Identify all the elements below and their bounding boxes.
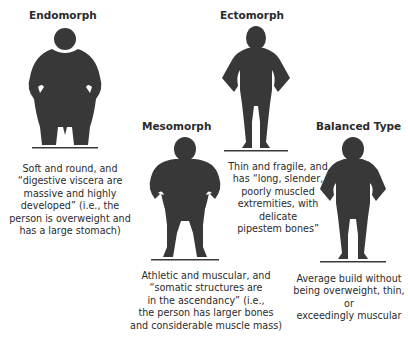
balanced-type-title: Balanced Type	[316, 120, 401, 132]
ectomorph-title: Ectomorph	[220, 9, 284, 21]
ectomorph-silhouette-icon	[220, 26, 292, 156]
mesomorph-title: Mesomorph	[142, 120, 211, 132]
balanced-type-description: Average build without being overweight, …	[290, 273, 408, 323]
mesomorph-silhouette-icon	[145, 137, 225, 267]
endomorph-description: Soft and round, and “digestive viscera a…	[0, 163, 140, 237]
endomorph-silhouette-icon	[24, 27, 106, 151]
endomorph-title: Endomorph	[29, 9, 97, 21]
mesomorph-description: Athletic and muscular, and “somatic stru…	[122, 270, 290, 332]
balanced-type-silhouette-icon	[318, 137, 388, 267]
